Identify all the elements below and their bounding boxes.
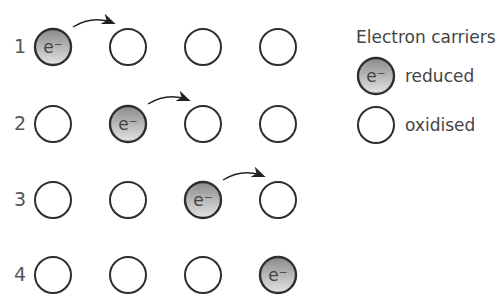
carrier-reduced: e⁻ (260, 257, 296, 293)
carrier-oxidised (110, 182, 146, 218)
carrier-reduced: e⁻ (110, 106, 146, 142)
carrier-reduced: e⁻ (35, 29, 71, 65)
electron-symbol: e⁻ (366, 66, 385, 86)
electron-symbol: e⁻ (193, 190, 212, 210)
transfer-arrow-icon (148, 97, 188, 104)
transfer-arrow-icon (73, 20, 113, 27)
transfer-arrow-icon (223, 173, 263, 180)
legend-title: Electron carriers (356, 27, 496, 47)
electron-symbol: e⁻ (268, 265, 287, 285)
carrier-oxidised (260, 106, 296, 142)
row-label: 1 (12, 35, 28, 57)
carrier-oxidised (260, 29, 296, 65)
carrier-oxidised (185, 29, 221, 65)
carrier-oxidised (35, 106, 71, 142)
carrier-oxidised (110, 257, 146, 293)
legend-reduced-carrier: e⁻ (358, 58, 394, 94)
row-label: 3 (12, 188, 28, 210)
carrier-oxidised (110, 29, 146, 65)
carrier-oxidised (260, 182, 296, 218)
row-label: 4 (12, 263, 28, 285)
electron-symbol: e⁻ (43, 37, 62, 57)
carrier-oxidised (185, 257, 221, 293)
legend-oxidised-carrier (358, 107, 394, 143)
carrier-oxidised (35, 182, 71, 218)
carrier-reduced: e⁻ (185, 182, 221, 218)
electron-symbol: e⁻ (118, 114, 137, 134)
legend-label-reduced: reduced (405, 66, 474, 86)
carrier-oxidised (185, 106, 221, 142)
legend-label-oxidised: oxidised (405, 115, 475, 135)
row-label: 2 (12, 112, 28, 134)
carrier-oxidised (35, 257, 71, 293)
